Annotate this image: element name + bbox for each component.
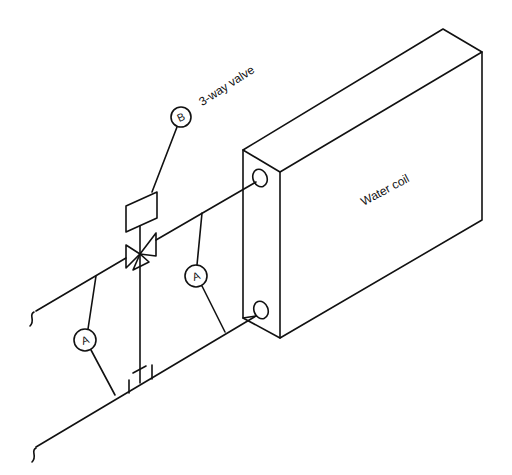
valve-actuator <box>126 192 157 232</box>
lower-pipe <box>32 316 256 462</box>
sensor-a-right: A <box>185 213 225 332</box>
water-coil: Water coil <box>243 29 482 338</box>
valve-label: 3-way valve <box>196 62 257 108</box>
pipe-break-icon <box>30 312 34 326</box>
pipe-break-icon <box>32 448 36 462</box>
callout-b: B 3-way valve <box>152 62 257 192</box>
valve-triangle-right <box>140 233 156 256</box>
sensor-a-left: A <box>74 276 115 395</box>
coil-upper-port <box>250 167 269 189</box>
valve-triangle-left <box>126 245 140 268</box>
svg-text:A: A <box>79 333 91 347</box>
coil-label: Water coil <box>358 171 411 208</box>
svg-text:B: B <box>175 110 187 124</box>
piping-diagram: Water coil B 3-way valve <box>0 0 512 475</box>
three-way-valve <box>126 192 157 393</box>
valve-triangle-bottom <box>133 254 149 270</box>
svg-text:A: A <box>190 269 202 283</box>
